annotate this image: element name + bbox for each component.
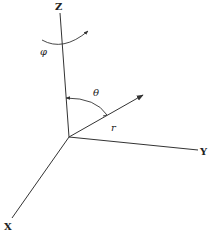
phi-label: φ bbox=[40, 46, 47, 57]
z-axis-label: Z bbox=[55, 1, 62, 12]
x-axis bbox=[12, 137, 69, 218]
x-axis-label: X bbox=[4, 221, 12, 232]
theta-arc-arrow bbox=[66, 98, 107, 115]
spherical-coordinates-diagram: Z Y X r θ φ bbox=[0, 0, 212, 234]
theta-label: θ bbox=[93, 87, 99, 98]
phi-arc-arrow bbox=[42, 31, 88, 44]
y-axis bbox=[69, 137, 198, 150]
y-axis-label: Y bbox=[199, 146, 208, 157]
r-vector-arrow bbox=[69, 95, 143, 137]
z-axis bbox=[60, 13, 69, 137]
r-label: r bbox=[111, 122, 117, 133]
